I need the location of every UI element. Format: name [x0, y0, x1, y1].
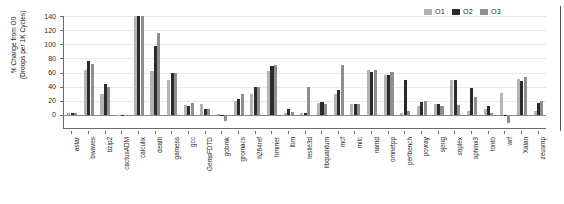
- bar-o3: [207, 109, 210, 115]
- bar-group: [150, 16, 160, 128]
- bar-o3: [324, 104, 327, 115]
- bar-group: [384, 16, 394, 128]
- bar-o3: [257, 87, 260, 115]
- x-tick-label: dealII: [157, 137, 163, 153]
- x-tick-label: gamess: [174, 137, 180, 159]
- x-tick-mark: [488, 131, 489, 134]
- x-tick-label: perlbench: [407, 137, 413, 165]
- plot-area: [63, 16, 546, 129]
- x-tick-mark: [105, 131, 106, 134]
- bar-group: [200, 16, 210, 128]
- bar-o3: [224, 115, 227, 121]
- bar-group: [534, 16, 544, 128]
- bar-group: [234, 16, 244, 128]
- bar-o3: [191, 103, 194, 115]
- x-tick-label: gobmk: [224, 137, 230, 156]
- legend-label-o1: O1: [435, 8, 445, 15]
- x-tick-mark: [454, 131, 455, 134]
- x-tick-mark: [521, 131, 522, 134]
- bar-o3: [540, 101, 543, 115]
- bar-group: [500, 16, 510, 128]
- bar-group: [417, 16, 427, 128]
- bar-group: [400, 16, 410, 128]
- bar-group: [467, 16, 477, 128]
- x-tick-mark: [238, 131, 239, 134]
- x-tick-label: tonto: [490, 137, 496, 151]
- x-tick-label: namd: [374, 137, 380, 153]
- bar-o3: [174, 73, 177, 115]
- bar-o3: [457, 105, 460, 115]
- bar-group: [317, 16, 327, 128]
- bar-o3: [241, 94, 244, 114]
- bar-group: [284, 16, 294, 128]
- bar-o3: [507, 115, 510, 123]
- x-tick-label: omnetpp: [390, 137, 396, 162]
- bar-o3: [91, 64, 94, 115]
- x-tick-label: povray: [423, 137, 429, 156]
- x-tick-label: wrf: [507, 137, 513, 146]
- bar-group: [67, 16, 77, 128]
- x-tick-label: GemsFDTD: [207, 137, 213, 171]
- legend-swatch-o2: [452, 9, 460, 15]
- x-tick-label: cactusADM: [124, 137, 130, 170]
- bar-o3: [157, 33, 160, 115]
- bar-group: [367, 16, 377, 128]
- bar-group: [450, 16, 460, 128]
- x-tick-label: gcc: [190, 137, 196, 147]
- x-tick-mark: [538, 131, 539, 134]
- x-tick-label: leslie3d: [307, 137, 313, 159]
- x-tick-mark: [221, 131, 222, 134]
- x-tick-label: Xalan: [523, 137, 529, 153]
- chart-legend: O1 O2 O3: [424, 8, 501, 15]
- x-tick-label: libquantum: [324, 137, 330, 168]
- bar-group: [334, 16, 344, 128]
- bar-o3: [374, 70, 377, 115]
- bar-group: [300, 16, 310, 128]
- bar-o3: [274, 65, 277, 114]
- right-frame-rule: [560, 6, 561, 131]
- x-tick-mark: [371, 131, 372, 134]
- y-tick-label: 0: [30, 111, 56, 118]
- bar-o3: [390, 72, 393, 115]
- bar-group: [267, 16, 277, 128]
- y-tick-label: 60: [30, 69, 56, 76]
- legend-label-o2: O2: [463, 8, 473, 15]
- x-tick-mark: [504, 131, 505, 134]
- y-tick-label: 140: [30, 13, 56, 20]
- legend-swatch-o1: [424, 9, 432, 15]
- x-axis-labels: astarbwavesbzip2cactusADMcalculixdealIIg…: [63, 131, 546, 201]
- chart-root: O1 O2 O3 % Change from O0 (Droops per 1K…: [0, 0, 564, 204]
- legend-entry-o2: O2: [452, 8, 473, 15]
- x-tick-mark: [421, 131, 422, 134]
- x-tick-label: soplex: [457, 137, 463, 155]
- x-tick-mark: [171, 131, 172, 134]
- x-tick-label: milc: [357, 137, 363, 148]
- x-tick-label: sphinx3: [473, 137, 479, 159]
- y-axis-title: % Change from O0 (Droops per 1K Cycles): [10, 0, 28, 95]
- x-tick-label: h264ref: [257, 137, 263, 159]
- bar-o3: [474, 97, 477, 115]
- bar-group: [184, 16, 194, 128]
- x-tick-mark: [354, 131, 355, 134]
- x-tick-mark: [71, 131, 72, 134]
- bar-o3: [141, 16, 144, 115]
- x-tick-mark: [271, 131, 272, 134]
- x-tick-label: sjeng: [440, 137, 446, 152]
- bar-o3: [424, 101, 427, 115]
- bar-o3: [341, 65, 344, 115]
- y-tick-label: 40: [30, 83, 56, 90]
- y-tick-label: 100: [30, 41, 56, 48]
- legend-entry-o3: O3: [480, 8, 501, 15]
- bar-group: [517, 16, 527, 128]
- bar-o3: [74, 113, 77, 115]
- legend-label-o3: O3: [491, 8, 501, 15]
- x-tick-mark: [88, 131, 89, 134]
- bar-o3: [524, 77, 527, 114]
- bar-group: [250, 16, 260, 128]
- x-tick-mark: [438, 131, 439, 134]
- x-tick-label: calculix: [140, 137, 146, 158]
- bar-o3: [407, 111, 410, 115]
- x-tick-label: astar: [74, 137, 80, 151]
- bar-group: [117, 16, 127, 128]
- bar-o3: [107, 87, 110, 115]
